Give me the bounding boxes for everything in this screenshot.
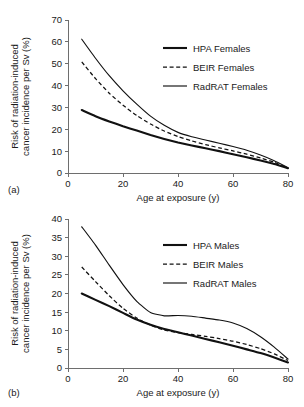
y-tick-label-25: 25 [51,269,62,280]
x-tick-label-80: 80 [283,178,294,189]
y-tick-label-30: 30 [51,251,62,262]
y-tick-label-5: 5 [57,344,62,355]
y-tick-label-35: 35 [51,232,62,243]
chart-b-svg: 0510152025303540020406080Age at exposure… [0,203,304,407]
legend-label-beir: BEIR Males [193,259,243,270]
x-tick-label-40: 40 [173,178,184,189]
y-tick-label-0: 0 [57,167,62,178]
series-line-hpa [82,110,288,168]
y-tick-label-40: 40 [51,213,62,224]
panel-b-label: (b) [8,387,20,398]
x-tick-label-0: 0 [65,373,70,384]
y-tick-label-0: 0 [57,362,62,373]
y-tick-label-15: 15 [51,307,62,318]
y-tick-label-40: 40 [51,80,62,91]
x-tick-label-60: 60 [228,178,239,189]
chart-panel-b: 0510152025303540020406080Age at exposure… [0,203,304,407]
panel-a-label: (a) [8,184,20,195]
y-tick-label-50: 50 [51,58,62,69]
x-tick-label-20: 20 [118,178,129,189]
x-tick-label-40: 40 [173,373,184,384]
y-axis-title-line1: Risk of radiation-induced [9,44,20,149]
y-tick-label-30: 30 [51,102,62,113]
chart-a-svg: 010203040506070020406080Age at exposure … [0,0,304,204]
x-axis-title: Age at exposure (y) [137,192,220,203]
y-tick-label-20: 20 [51,288,62,299]
legend-label-hpa: HPA Males [193,240,240,251]
legend-label-beir: BEIR Females [193,62,254,73]
x-axis-title: Age at exposure (y) [137,387,220,398]
x-tick-label-60: 60 [228,373,239,384]
x-tick-label-20: 20 [118,373,129,384]
y-tick-label-10: 10 [51,146,62,157]
x-tick-label-80: 80 [283,373,294,384]
figure-container: 010203040506070020406080Age at exposure … [0,0,304,407]
chart-panel-a: 010203040506070020406080Age at exposure … [0,0,304,204]
x-tick-label-0: 0 [65,178,70,189]
y-axis-title-line2: cancer incidence per Sv (%) [20,37,31,156]
series-line-hpa [82,294,288,363]
legend-label-radrat: RadRAT Females [193,81,268,92]
legend-label-radrat: RadRAT Males [193,278,257,289]
series-line-radrat [82,227,288,359]
y-axis-title-line1: Risk of radiation-induced [9,241,20,346]
y-tick-label-60: 60 [51,36,62,47]
y-tick-label-70: 70 [51,14,62,25]
series-line-beir [82,62,288,168]
y-axis-title-line2: cancer incidence per Sv (%) [20,234,31,353]
legend-label-hpa: HPA Females [193,43,251,54]
y-tick-label-20: 20 [51,124,62,135]
series-line-beir [82,267,288,361]
y-tick-label-10: 10 [51,325,62,336]
series-line-radrat [82,39,288,168]
